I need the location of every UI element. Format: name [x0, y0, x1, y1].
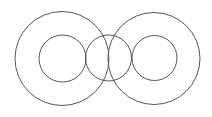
right-outer-circle — [108, 13, 200, 105]
left-inner-circle — [39, 35, 86, 82]
circle-group — [15, 12, 200, 106]
right-inner-circle — [132, 36, 177, 81]
circles-diagram — [0, 0, 212, 117]
left-outer-circle — [15, 12, 109, 106]
